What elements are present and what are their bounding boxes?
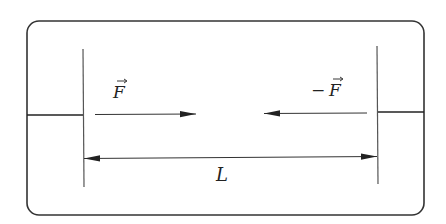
distance-label: L bbox=[215, 164, 228, 185]
distance-arrow bbox=[84, 157, 377, 159]
force-arrow-right-pointing bbox=[95, 114, 196, 115]
minus-sign: − bbox=[311, 80, 325, 100]
right-plate bbox=[377, 46, 378, 184]
force-label-right: − F bbox=[311, 77, 343, 100]
force-arrow-left-pointing bbox=[264, 113, 367, 114]
left-plate bbox=[83, 49, 84, 187]
parallel-plates-diagram: F − F L bbox=[0, 0, 446, 224]
force-symbol: F bbox=[328, 80, 342, 100]
force-label-left: F bbox=[112, 79, 127, 102]
force-symbol: F bbox=[112, 82, 126, 102]
enclosure-box bbox=[27, 21, 424, 215]
